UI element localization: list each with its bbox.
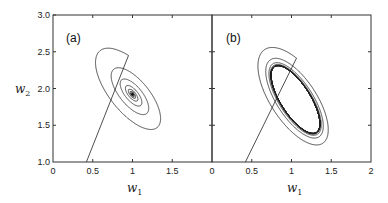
x-tick-label-a: 1.5 <box>166 166 179 176</box>
x-tick-label-b: 1 <box>289 166 294 176</box>
y-tick-label: 2.0 <box>37 84 50 94</box>
x-tick-label-b: 1.5 <box>325 166 338 176</box>
trajectory-curve <box>245 48 328 163</box>
trajectory-a <box>86 48 160 162</box>
panel-label-b: (b) <box>226 31 241 45</box>
figure: 3.0 2.5 2.0 1.5 1.0 0 0.5 1 1.5 0 0.5 1 … <box>0 0 388 203</box>
trajectory-curve <box>86 48 160 162</box>
y-tick-label: 2.5 <box>37 47 50 57</box>
x-axis-label-b: w1 <box>287 181 302 197</box>
y-tick-label: 1.5 <box>37 120 50 130</box>
x-axis-label-a: w1 <box>127 181 142 197</box>
y-tick-label: 1.0 <box>37 157 50 167</box>
x-tick-label-a: 0.5 <box>86 166 99 176</box>
trajectory-b <box>245 48 328 163</box>
y-tick-label: 3.0 <box>37 10 50 20</box>
x-tick-label-b: 2 <box>368 166 373 176</box>
x-tick-label-b: 0.5 <box>245 166 258 176</box>
x-tick-label-a: 1 <box>130 166 135 176</box>
panel-label-a: (a) <box>66 31 81 45</box>
x-tick-label-b: 0 <box>209 166 214 176</box>
x-tick-label-a: 0 <box>50 166 55 176</box>
y-axis-label: w2 <box>15 82 30 98</box>
